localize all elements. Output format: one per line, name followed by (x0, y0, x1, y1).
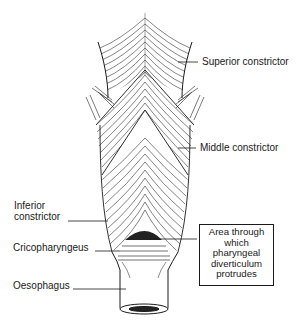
middle-constrictor-muscle (96, 75, 194, 181)
label-inferior-constrictor-line1: Inferior (14, 200, 45, 211)
callout-box-diverticulum: Area through which pharyngeal diverticul… (199, 224, 274, 286)
label-inferior-constrictor-line2: constrictor (14, 211, 60, 222)
callout-line: protrudes (203, 269, 270, 280)
label-oesophagus: Oesophagus (13, 280, 70, 291)
oesophagus-tube (112, 252, 178, 314)
callout-line: pharyngeal (203, 248, 270, 259)
label-superior-constrictor: Superior constrictor (202, 56, 289, 67)
label-middle-constrictor: Middle constrictor (200, 142, 278, 153)
label-cricopharyngeus: Cricopharyngeus (13, 242, 89, 253)
superior-outline (98, 13, 192, 98)
cricopharyngeus-muscle (118, 246, 170, 260)
middle-outline (96, 70, 194, 125)
callout-line: Area through (203, 227, 270, 238)
